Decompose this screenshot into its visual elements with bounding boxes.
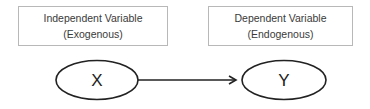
node-x: X <box>56 61 138 100</box>
node-y: Y <box>242 61 326 100</box>
causal-diagram: X Y <box>0 0 370 109</box>
node-y-label: Y <box>278 71 289 90</box>
node-x-label: X <box>91 71 102 90</box>
